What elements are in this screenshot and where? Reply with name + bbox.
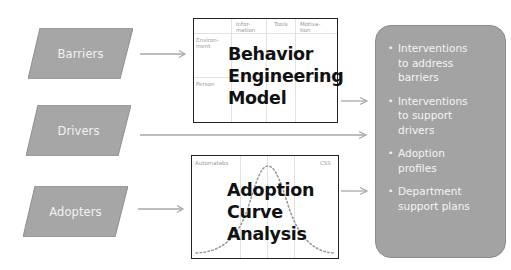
adoption-curve-analysis-box: Automatabs CSS Adoption Curve Analysis	[191, 155, 339, 259]
bullet-icon: •	[388, 146, 393, 161]
curve-title: Adoption Curve Analysis	[227, 179, 314, 245]
input-label-adopters: Adopters	[49, 205, 101, 219]
output-item: • Adoption profiles	[388, 146, 499, 175]
output-item: • Department support plans	[388, 184, 499, 213]
output-item: • Interventions to support drivers	[388, 94, 499, 138]
row-header-environment: Environ- ment	[196, 37, 219, 49]
input-adopters: Adopters	[23, 186, 128, 237]
bullet-icon: •	[388, 94, 393, 109]
row-header-person: Person	[196, 81, 214, 87]
col-header-motivation: Motiva- tion	[300, 21, 320, 33]
grid-line	[194, 33, 337, 34]
arrow-curve-to-outputs	[341, 186, 369, 196]
outputs-box: • Interventions to address barriers • In…	[375, 25, 506, 258]
input-drivers: Drivers	[26, 105, 131, 156]
outputs-list: • Interventions to address barriers • In…	[388, 41, 499, 213]
input-label-drivers: Drivers	[57, 124, 99, 138]
arrow-drivers-to-outputs	[140, 130, 368, 140]
input-barriers: Barriers	[28, 28, 133, 79]
bullet-icon: •	[388, 184, 393, 199]
arrow-barriers-to-bem	[140, 49, 188, 59]
col-header-tools: Tools	[274, 21, 288, 27]
bullet-icon: •	[388, 41, 393, 56]
bem-title: Behavior Engineering Model	[228, 43, 343, 109]
behavior-engineering-model-box: Infor- mation Tools Motiva- tion Environ…	[193, 18, 338, 123]
input-label-barriers: Barriers	[58, 47, 104, 61]
arrow-bem-to-outputs	[341, 96, 369, 106]
arrow-adopters-to-curve	[138, 204, 186, 214]
output-item: • Interventions to address barriers	[388, 41, 499, 85]
col-header-information: Infor- mation	[236, 21, 255, 33]
